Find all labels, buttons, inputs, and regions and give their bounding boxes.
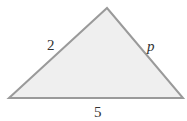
right-side-label: p xyxy=(146,38,155,54)
triangle-shape xyxy=(9,8,183,98)
triangle-diagram: 2 p 5 xyxy=(0,0,187,121)
left-side-label: 2 xyxy=(47,37,55,53)
base-label: 5 xyxy=(94,104,102,120)
